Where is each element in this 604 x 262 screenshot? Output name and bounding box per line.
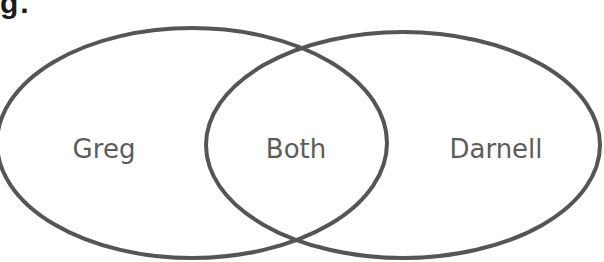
label-greg: Greg xyxy=(73,134,136,164)
label-both: Both xyxy=(266,134,326,164)
venn-diagram xyxy=(0,0,604,262)
label-darnell: Darnell xyxy=(449,134,542,164)
venn-circle-greg xyxy=(0,28,387,258)
